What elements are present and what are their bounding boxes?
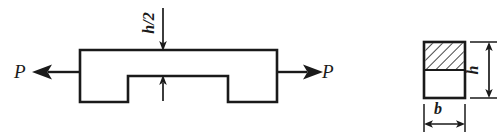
section-width-label: b [434, 101, 442, 117]
section-height-label-text: h [465, 66, 481, 75]
section-height-label: h [462, 58, 484, 82]
cross-section-group [424, 42, 497, 132]
force-label-left: P [14, 62, 26, 81]
notch-depth-label-text: h/2 [141, 12, 157, 33]
engineering-diagram: P P h/2 h b [0, 0, 503, 139]
force-label-right: P [322, 62, 334, 81]
notched-bar-outline [80, 50, 277, 102]
arrow-left-icon [32, 65, 80, 80]
notch-depth-label: h/2 [132, 5, 166, 41]
diagonal-hatch-icon [425, 43, 463, 69]
arrow-right-icon [277, 65, 323, 80]
notched-bar-group [32, 8, 323, 102]
diagram-canvas [0, 0, 503, 139]
arrow-up-icon [159, 75, 167, 101]
double-arrow-horizontal-icon [424, 104, 465, 132]
